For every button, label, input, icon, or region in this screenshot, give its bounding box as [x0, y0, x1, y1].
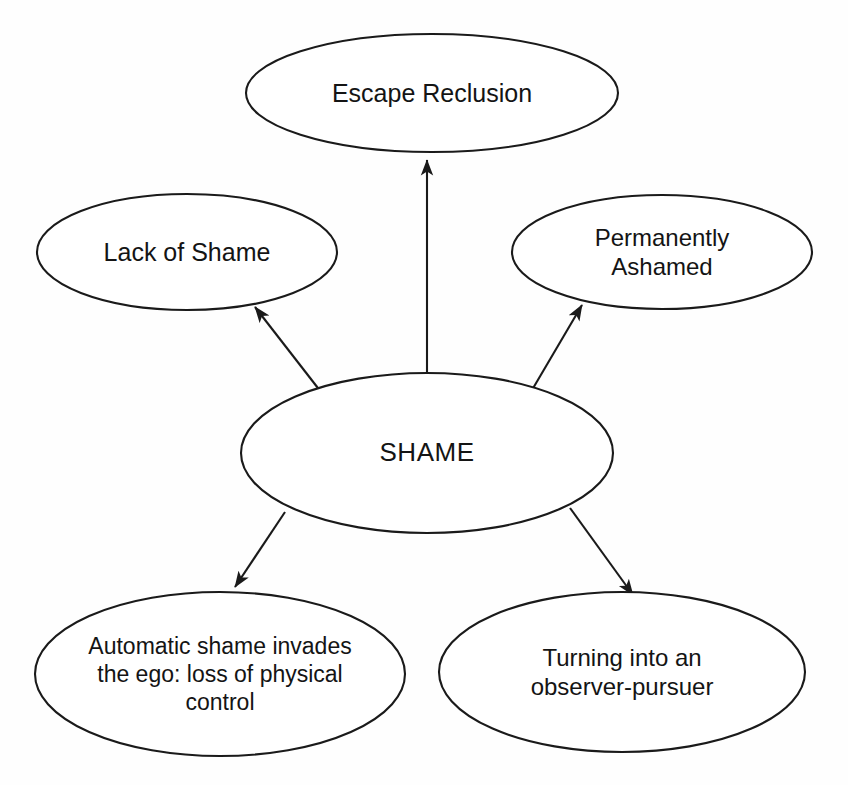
- node-ellipse-lack-of-shame[interactable]: [37, 194, 337, 310]
- node-ellipse-permanently-ashamed[interactable]: [512, 195, 812, 309]
- diagram-canvas: [0, 0, 848, 785]
- node-ellipse-automatic-shame-invades-the-ego[interactable]: [35, 592, 405, 756]
- ellipses-group: [35, 34, 812, 756]
- node-ellipse-escape-reclusion[interactable]: [246, 34, 618, 152]
- node-ellipse-shame[interactable]: [241, 373, 613, 533]
- edge-arrow-shame-to-lack-of-shame: [255, 307, 321, 392]
- edge-arrow-shame-to-automatic-shame: [235, 512, 285, 587]
- edge-arrow-shame-to-permanently-ashamed: [532, 305, 582, 390]
- concept-map-diagram: SHAMEEscape ReclusionLack of ShamePerman…: [0, 0, 848, 785]
- edge-arrow-shame-to-turning-into-observer: [570, 508, 633, 595]
- node-ellipse-turning-into-an-observer-pursuer[interactable]: [439, 592, 805, 752]
